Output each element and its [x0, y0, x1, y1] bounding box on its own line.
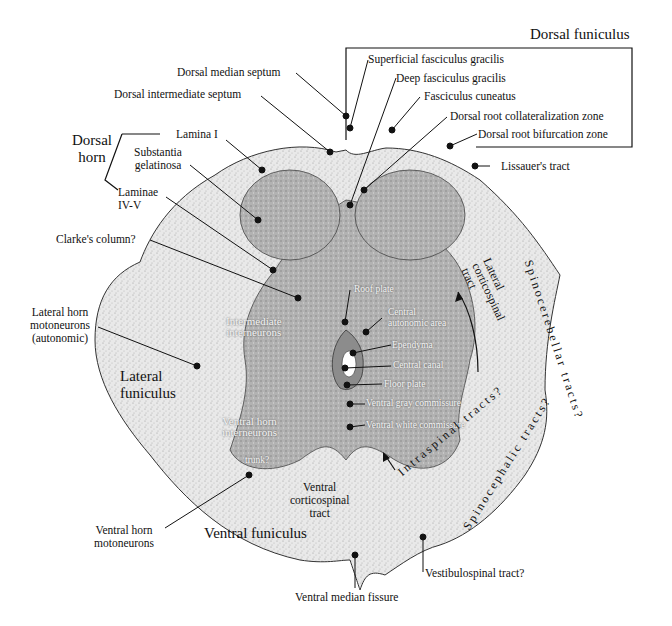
- label-intermediate-interneurons: Intermediate interneurons: [226, 316, 282, 338]
- label-dorsal-median-septum: Dorsal median septum: [177, 66, 280, 79]
- label-central-autonomic-area: Central autonomic area: [388, 307, 446, 329]
- label-ventral-gray-commissure: Ventral gray commissure: [366, 398, 461, 409]
- left-dorsal-horn: [240, 170, 340, 260]
- label-deep-fasciculus-gracilis: Deep fasciculus gracilis: [396, 72, 506, 85]
- label-ependyma: Ependyma: [392, 340, 433, 351]
- label-substantia-gelatinosa: Substantia gelatinosa: [134, 146, 182, 172]
- heading-ventral-funiculus: Ventral funiculus: [204, 525, 307, 542]
- label-central-canal: Central canal: [393, 360, 443, 371]
- label-lissauers-tract: Lissauer's tract: [501, 160, 570, 173]
- heading-dorsal-horn: Dorsal horn: [72, 132, 112, 166]
- label-floor-plate: Floor plate: [384, 379, 425, 390]
- label-ventral-horn-interneurons: Ventral horn interneurons: [222, 416, 277, 438]
- label-lamina-i: Lamina I: [176, 128, 218, 141]
- label-fasciculus-cuneatus: Fasciculus cuneatus: [424, 90, 516, 103]
- label-dorsal-root-collateralization-zone: Dorsal root collateralization zone: [450, 110, 604, 123]
- label-lateral-horn-motoneurons: Lateral horn motoneurons (autonomic): [30, 306, 90, 345]
- label-clarkes-column: Clarke's column?: [56, 233, 136, 246]
- label-ventral-horn-motoneurons: Ventral horn motoneurons: [94, 524, 154, 550]
- label-dorsal-root-bifurcation-zone: Dorsal root bifurcation zone: [478, 128, 608, 141]
- label-dorsal-intermediate-septum: Dorsal intermediate septum: [114, 88, 241, 101]
- heading-dorsal-funiculus: Dorsal funiculus: [530, 26, 630, 43]
- label-superficial-fasciculus-gracilis: Superficial fasciculus gracilis: [368, 53, 504, 66]
- label-ventral-median-fissure: Ventral median fissure: [295, 591, 398, 604]
- label-ventral-corticospinal-tract: Ventral corticospinal tract: [290, 481, 349, 520]
- label-laminae-iv-v: Laminae IV-V: [118, 186, 158, 212]
- label-roof-plate: Roof plate: [354, 284, 394, 295]
- heading-lateral-funiculus: Lateral funiculus: [120, 368, 176, 402]
- label-trunk: trunk?: [245, 455, 269, 466]
- label-vestibulospinal-tract: Vestibulospinal tract?: [425, 567, 524, 580]
